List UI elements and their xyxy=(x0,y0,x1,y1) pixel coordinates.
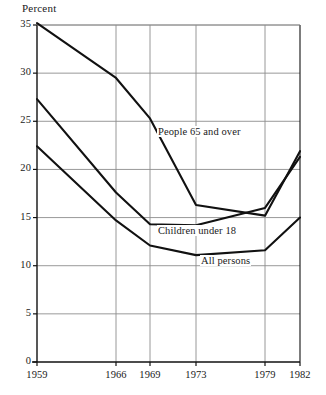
y-tick-label: 25 xyxy=(4,114,31,125)
axis-lines xyxy=(32,25,300,362)
x-tick-label: 1969 xyxy=(125,369,175,380)
x-tick-label: 1959 xyxy=(12,369,62,380)
y-tick-label: 10 xyxy=(4,259,31,270)
gridlines xyxy=(37,25,300,362)
series-line-1 xyxy=(37,99,300,225)
x-tick-label: 1973 xyxy=(171,369,221,380)
chart-plot-area xyxy=(0,0,326,395)
y-tick-label: 35 xyxy=(4,18,31,29)
series-annotation-0: People 65 and over xyxy=(157,126,242,137)
series-annotation-1: Children under 18 xyxy=(157,225,237,236)
y-tick-label: 0 xyxy=(4,355,31,366)
y-tick-label: 15 xyxy=(4,211,31,222)
y-tick-label: 5 xyxy=(4,307,31,318)
series-line-2 xyxy=(37,146,300,255)
chart-container: Percent 05101520253035 19591966196919731… xyxy=(0,0,326,395)
x-tick-label: 1982 xyxy=(275,369,325,380)
tick-marks xyxy=(33,25,300,366)
series-lines xyxy=(37,23,300,255)
y-tick-label: 20 xyxy=(4,162,31,173)
y-tick-label: 30 xyxy=(4,66,31,77)
series-annotation-2: All persons xyxy=(200,255,251,266)
series-line-0 xyxy=(37,23,300,216)
